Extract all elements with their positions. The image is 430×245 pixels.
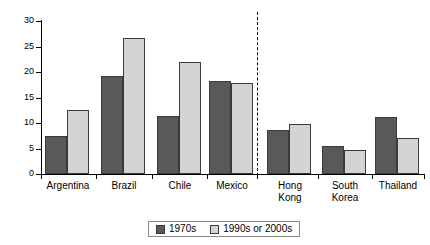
y-tick [36, 21, 41, 22]
bar [322, 146, 344, 174]
x-tick [372, 174, 373, 179]
x-tick [152, 174, 153, 179]
y-tick-label: 30 [12, 16, 34, 25]
y-tick [36, 72, 41, 73]
x-tick [207, 174, 208, 179]
y-tick-label: 25 [12, 42, 34, 51]
legend-swatch-1990s-or-2000s [210, 225, 219, 234]
bar-group [45, 21, 89, 174]
y-tick [36, 47, 41, 48]
x-axis-label-line: Thailand [367, 180, 429, 192]
bar [179, 62, 201, 174]
x-tick [41, 174, 42, 179]
legend: 1970s 1990s or 2000s [148, 221, 300, 237]
bar [101, 76, 123, 174]
x-axis-label-line: Kong [259, 192, 321, 204]
bar [231, 83, 253, 174]
x-axis-label-line: Mexico [201, 180, 263, 192]
legend-label-1990s-or-2000s: 1990s or 2000s [223, 224, 292, 234]
x-tick [318, 174, 319, 179]
bar-group [101, 21, 145, 174]
bar-group [209, 21, 253, 174]
y-tick-label: 10 [12, 118, 34, 127]
bar [209, 81, 231, 174]
y-tick-label: 5 [12, 144, 34, 153]
region-divider-dashed-line [257, 12, 258, 176]
bar-group [322, 21, 366, 174]
bar-group [375, 21, 419, 174]
legend-label-1970s: 1970s [169, 224, 196, 234]
bar-group [267, 21, 311, 174]
x-axis-label: Mexico [201, 180, 263, 192]
x-axis-label: Brazil [93, 180, 155, 192]
bar [67, 110, 89, 174]
y-axis-line [41, 20, 42, 175]
y-tick-label: 20 [12, 67, 34, 76]
bar [375, 117, 397, 174]
x-axis-label: Thailand [367, 180, 429, 192]
bar [45, 136, 67, 174]
x-tick [424, 174, 425, 179]
bar [157, 116, 179, 174]
x-axis-line [41, 174, 424, 175]
y-tick [36, 149, 41, 150]
legend-item-1970s: 1970s [156, 224, 196, 234]
bar-group [157, 21, 201, 174]
bar [397, 138, 419, 174]
legend-item-1990s-or-2000s: 1990s or 2000s [210, 224, 292, 234]
bar [344, 150, 366, 174]
x-axis-label-line: Korea [314, 192, 376, 204]
bar-chart: 051015202530 ArgentinaBrazilChileMexicoH… [0, 0, 430, 245]
bar [123, 38, 145, 174]
x-axis-label: Argentina [37, 180, 99, 192]
x-tick [96, 174, 97, 179]
y-tick [36, 123, 41, 124]
x-axis-label-line: Argentina [37, 180, 99, 192]
legend-swatch-1970s [156, 225, 165, 234]
x-axis-label-line: Hong [259, 180, 321, 192]
x-axis-label-line: Brazil [93, 180, 155, 192]
bar [267, 130, 289, 174]
bar [289, 124, 311, 174]
y-tick-label: 0 [12, 169, 34, 178]
y-tick [36, 98, 41, 99]
y-tick-label: 15 [12, 93, 34, 102]
x-axis-label: HongKong [259, 180, 321, 204]
